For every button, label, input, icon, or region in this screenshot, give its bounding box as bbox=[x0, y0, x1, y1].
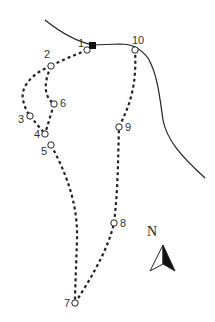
waypoint-label-9: 9 bbox=[125, 121, 131, 133]
waypoint-label-6: 6 bbox=[60, 97, 66, 109]
waypoint-label-1: 1 bbox=[78, 37, 84, 49]
route-2-6 bbox=[46, 66, 54, 104]
waypoint-label-8: 8 bbox=[120, 217, 126, 229]
waypoint-label-10: 10 bbox=[132, 34, 144, 46]
north-arrow: N bbox=[147, 224, 175, 271]
waypoint-2 bbox=[48, 63, 54, 69]
waypoint-label-7: 7 bbox=[64, 297, 70, 309]
waypoint-1 bbox=[84, 47, 90, 53]
waypoint-10 bbox=[132, 47, 138, 53]
waypoint-7 bbox=[72, 300, 78, 306]
route-9-10 bbox=[119, 50, 135, 127]
route-8-9 bbox=[114, 127, 119, 223]
waypoint-4 bbox=[42, 131, 48, 137]
route-6-4 bbox=[45, 104, 54, 134]
waypoint-3 bbox=[27, 113, 33, 119]
waypoint-8 bbox=[111, 220, 117, 226]
route-map: 12345678910 N bbox=[0, 0, 215, 322]
shoreline bbox=[45, 20, 205, 178]
waypoint-9 bbox=[116, 124, 122, 130]
route-1-2 bbox=[51, 50, 87, 66]
route-7-8 bbox=[75, 223, 114, 303]
waypoint-6 bbox=[51, 101, 57, 107]
waypoint-label-3: 3 bbox=[18, 113, 24, 125]
waypoint-label-5: 5 bbox=[41, 145, 47, 157]
route-5-7 bbox=[51, 145, 77, 303]
north-label: N bbox=[147, 224, 157, 239]
waypoint-label-4: 4 bbox=[34, 128, 40, 140]
waypoint-label-2: 2 bbox=[44, 48, 50, 60]
waypoint-5 bbox=[48, 142, 54, 148]
route-paths bbox=[23, 50, 136, 303]
